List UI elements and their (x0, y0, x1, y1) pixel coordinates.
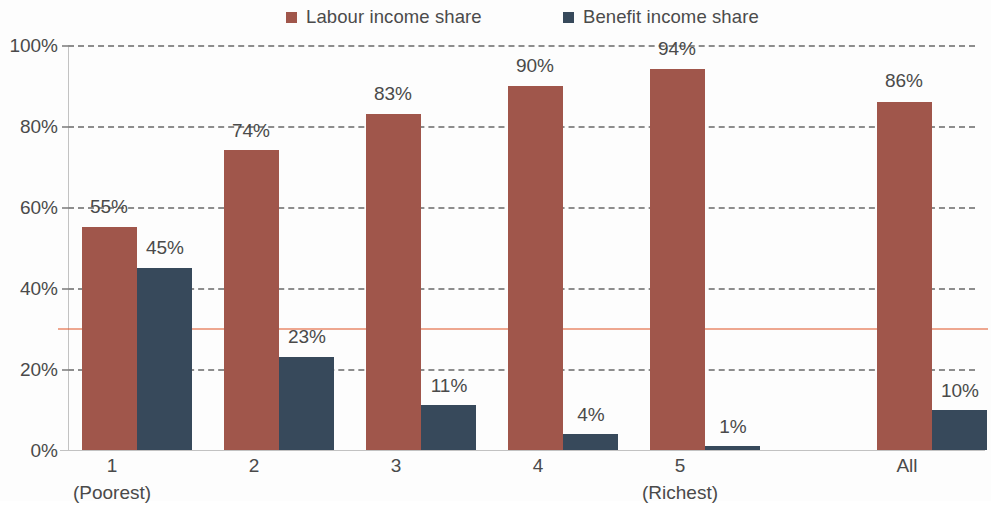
bar-value-labour-all: 86% (869, 71, 939, 90)
x-tick-all: All (847, 455, 967, 477)
bar-labour-3[interactable] (366, 114, 421, 450)
bar-value-labour-1: 55% (74, 197, 144, 216)
bar-value-labour-2: 74% (216, 121, 286, 140)
legend-label-benefit: Benefit income share (583, 8, 759, 27)
legend-swatch-labour-icon (286, 12, 297, 23)
bar-value-labour-5: 94% (642, 39, 712, 58)
legend-swatch-benefit-icon (563, 12, 574, 23)
bar-value-benefit-1: 45% (130, 238, 200, 257)
x-tick-5-label: 5 (620, 455, 740, 477)
bar-value-benefit-5: 1% (698, 417, 768, 436)
x-tick-3-label: 3 (336, 455, 456, 477)
gridline-100 (68, 45, 975, 47)
y-axis-label-60: 60% (2, 198, 58, 217)
y-axis-label-20: 20% (2, 360, 58, 379)
bar-value-benefit-3: 11% (414, 376, 484, 395)
bar-labour-4[interactable] (508, 86, 563, 451)
y-axis-labels: 100% 80% 60% 40% 20% 0% (0, 45, 58, 451)
y-axis-label-80: 80% (2, 117, 58, 136)
y-axis-label-0: 0% (2, 441, 58, 460)
x-tick-1-sublabel: (Poorest) (52, 482, 172, 504)
plot-area: 55% 45% 74% 23% 83% 11% 90% 4% 94% 1% 86… (68, 45, 975, 450)
bar-benefit-all[interactable] (932, 410, 987, 451)
bar-value-benefit-2: 23% (272, 327, 342, 346)
x-tick-4: 4 (478, 455, 598, 477)
legend-item-labour-income-share[interactable]: Labour income share (286, 8, 482, 27)
bar-labour-all[interactable] (877, 102, 932, 450)
bar-value-labour-4: 90% (500, 56, 570, 75)
x-tick-5-sublabel: (Richest) (620, 482, 740, 504)
x-tick-4-label: 4 (478, 455, 598, 477)
chart-legend: Labour income share Benefit income share (0, 8, 991, 34)
bar-labour-1[interactable] (82, 227, 137, 450)
bar-value-benefit-4: 4% (556, 405, 626, 424)
bar-benefit-1[interactable] (137, 268, 192, 450)
bar-benefit-3[interactable] (421, 405, 476, 450)
bar-benefit-2[interactable] (279, 357, 334, 450)
bar-value-benefit-all: 10% (925, 381, 991, 400)
legend-label-labour: Labour income share (306, 8, 482, 27)
x-tick-3: 3 (336, 455, 456, 477)
x-tick-all-label: All (847, 455, 967, 477)
x-tick-1-label: 1 (52, 455, 172, 477)
legend-item-benefit-income-share[interactable]: Benefit income share (563, 8, 759, 27)
bar-labour-5[interactable] (650, 69, 705, 450)
x-axis-spine (60, 450, 985, 451)
x-tick-5: 5 (Richest) (620, 455, 740, 505)
bar-labour-2[interactable] (224, 150, 279, 450)
x-tick-2-label: 2 (194, 455, 314, 477)
x-tick-2: 2 (194, 455, 314, 477)
y-axis-label-100: 100% (2, 36, 58, 55)
bar-value-labour-3: 83% (358, 84, 428, 103)
y-axis-label-40: 40% (2, 279, 58, 298)
x-tick-1: 1 (Poorest) (52, 455, 172, 505)
bar-benefit-4[interactable] (563, 434, 618, 450)
